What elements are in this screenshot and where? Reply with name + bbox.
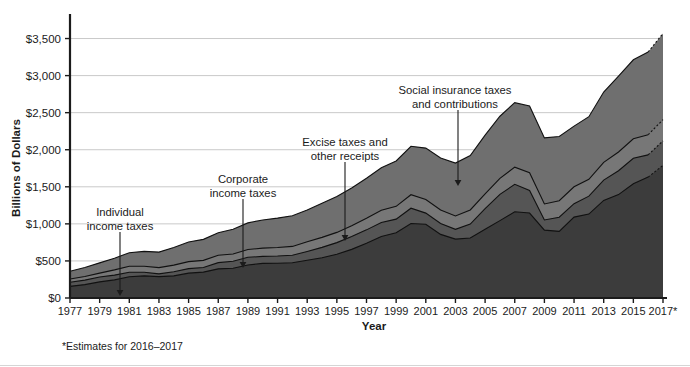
annotation-label: income taxes bbox=[210, 187, 277, 199]
x-tick-label: 1985 bbox=[176, 305, 200, 317]
y-axis-title: Billions of Dollars bbox=[10, 119, 22, 217]
y-tick-label: $2,000 bbox=[26, 144, 61, 156]
y-tick-label: $500 bbox=[35, 255, 61, 267]
annotation-label: and contributions bbox=[412, 98, 498, 110]
x-tick-label: 1993 bbox=[295, 305, 319, 317]
x-tick-label: 1991 bbox=[265, 305, 289, 317]
annotation-label: Excise taxes and bbox=[302, 136, 387, 148]
x-tick-labels: 1977197919811983198519871989199119931995… bbox=[58, 305, 678, 317]
x-tick-label: 2001 bbox=[414, 305, 438, 317]
x-tick-label: 2015 bbox=[621, 305, 645, 317]
annotation-label: Corporate bbox=[218, 173, 268, 185]
x-tick-label: 2011 bbox=[562, 305, 586, 317]
y-tick-label: $3,500 bbox=[26, 33, 61, 45]
x-tick-label: 1989 bbox=[236, 305, 260, 317]
annotation-label: Social insurance taxes bbox=[398, 84, 511, 96]
x-tick-label: 2007 bbox=[503, 305, 527, 317]
x-tick-label: 2013 bbox=[591, 305, 615, 317]
x-tick-label: 1977 bbox=[58, 305, 82, 317]
y-tick-label: $1,000 bbox=[26, 218, 61, 230]
stacked-area-chart: $0$500$1,000$1,500$2,000$2,500$3,000$3,5… bbox=[0, 0, 690, 367]
x-tick-label: 1999 bbox=[384, 305, 408, 317]
annotation-label: other receipts bbox=[311, 150, 380, 162]
x-tick-label: 1987 bbox=[206, 305, 230, 317]
x-tick-label: 1979 bbox=[87, 305, 111, 317]
footnote-estimates: *Estimates for 2016–2017 bbox=[62, 340, 183, 352]
x-tick-label: 2003 bbox=[443, 305, 467, 317]
x-tick-label: 1983 bbox=[147, 305, 171, 317]
x-axis-title: Year bbox=[362, 320, 387, 332]
y-tick-label: $0 bbox=[48, 292, 61, 304]
annotation-label: Individual bbox=[96, 206, 144, 218]
annotation-label: income taxes bbox=[87, 220, 154, 232]
y-tick-label: $3,000 bbox=[26, 70, 61, 82]
x-tick-label: 1997 bbox=[354, 305, 378, 317]
x-tick-label: 2009 bbox=[532, 305, 556, 317]
x-tick-label: 2005 bbox=[473, 305, 497, 317]
y-tick-label: $1,500 bbox=[26, 181, 61, 193]
x-tick-label: 1981 bbox=[117, 305, 141, 317]
x-tick-label: 1995 bbox=[325, 305, 349, 317]
y-tick-label: $2,500 bbox=[26, 107, 61, 119]
figure-container: $0$500$1,000$1,500$2,000$2,500$3,000$3,5… bbox=[0, 0, 690, 367]
x-tick-label: 2017* bbox=[649, 305, 678, 317]
